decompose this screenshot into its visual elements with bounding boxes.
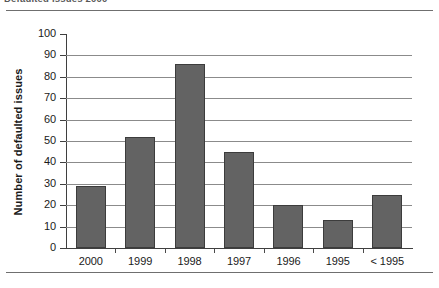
bar-2000: [76, 186, 106, 248]
figure-caption-clipped: Defaulted issues 2000: [0, 0, 439, 7]
bar-1996: [273, 205, 303, 248]
y-axis-tick-100: [60, 34, 66, 35]
bar-1997: [224, 152, 254, 248]
x-axis-tick-2: [165, 249, 166, 253]
bar-1998: [175, 64, 205, 248]
y-axis-label-70: 70: [22, 92, 56, 103]
x-axis-tick-3: [214, 249, 215, 253]
y-axis-label-50: 50: [22, 135, 56, 146]
x-axis-tick-1: [115, 249, 116, 253]
y-axis-label-90: 90: [22, 49, 56, 60]
gridline-90: [66, 55, 412, 56]
x-axis-tick-5: [313, 249, 314, 253]
bar-1999: [125, 137, 155, 248]
y-axis-tick-0: [60, 248, 66, 249]
y-axis-tick-20: [60, 205, 66, 206]
bar-1995: [323, 220, 353, 248]
bar-1995: [372, 195, 402, 249]
y-axis-tick-60: [60, 120, 66, 121]
y-axis-tick-90: [60, 55, 66, 56]
y-axis-label-0: 0: [22, 242, 56, 253]
y-axis-label-10: 10: [22, 221, 56, 232]
y-axis-label-30: 30: [22, 178, 56, 189]
bar-chart: Number of defaulted issues 0102030405060…: [0, 10, 439, 272]
y-axis-label-40: 40: [22, 156, 56, 167]
y-axis-tick-70: [60, 98, 66, 99]
gridline-50: [66, 141, 412, 142]
y-axis-label-60: 60: [22, 114, 56, 125]
x-axis-tick-4: [264, 249, 265, 253]
gridline-60: [66, 120, 412, 121]
plot-area: [66, 34, 412, 248]
y-axis-tick-10: [60, 227, 66, 228]
figure-caption-text: Defaulted issues 2000: [4, 0, 107, 4]
gridline-80: [66, 77, 412, 78]
y-axis-label-100: 100: [22, 28, 56, 39]
gridline-70: [66, 98, 412, 99]
y-axis-tick-30: [60, 184, 66, 185]
x-axis-label-1995: < 1995: [357, 256, 417, 267]
x-axis-tick-6: [363, 249, 364, 253]
x-axis-line: [66, 248, 413, 249]
y-axis-label-80: 80: [22, 71, 56, 82]
divider-bottom: [6, 272, 433, 273]
y-axis-tick-80: [60, 77, 66, 78]
y-axis-tick-40: [60, 162, 66, 163]
y-axis-label-20: 20: [22, 199, 56, 210]
y-axis-tick-50: [60, 141, 66, 142]
